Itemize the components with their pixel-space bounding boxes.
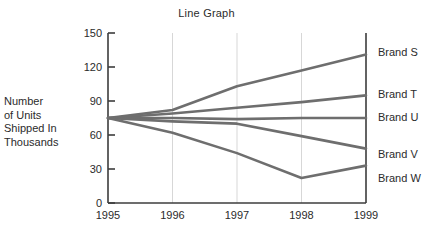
x-tick-labels: 19951996199719981999 (96, 209, 378, 221)
series-label-brand-w: Brand W (378, 172, 421, 184)
y-tick-label-90: 90 (90, 95, 102, 107)
y-tick-label-120: 120 (84, 61, 102, 73)
y-tick-label-60: 60 (90, 129, 102, 141)
series-label-brand-u: Brand U (378, 111, 418, 123)
x-tick-label-1996: 1996 (160, 209, 184, 221)
x-tick-label-1997: 1997 (225, 209, 249, 221)
x-tick-label-1998: 1998 (289, 209, 313, 221)
series-label-brand-s: Brand S (378, 46, 418, 58)
line-graph-figure: Line Graph Number of Units Shipped In Th… (0, 0, 433, 234)
y-tick-label-150: 150 (84, 27, 102, 39)
x-tick-label-1995: 1995 (96, 209, 120, 221)
x-tick-label-1999: 1999 (354, 209, 378, 221)
series-label-brand-t: Brand T (378, 88, 417, 100)
y-tick-labels: 0306090120150 (84, 27, 102, 209)
y-tick-label-0: 0 (96, 197, 102, 209)
plot-area: 0306090120150 19951996199719981999 (0, 0, 433, 234)
y-tick-label-30: 30 (90, 163, 102, 175)
series-label-brand-v: Brand V (378, 148, 418, 160)
